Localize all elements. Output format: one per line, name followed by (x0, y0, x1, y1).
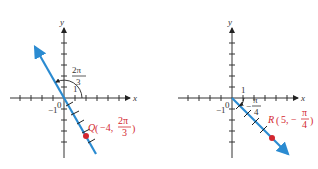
svg-text:): ) (132, 123, 135, 135)
point-q (83, 133, 89, 139)
svg-text:4: 4 (302, 119, 307, 130)
svg-text:4: 4 (254, 107, 259, 117)
svg-text:−4,: −4, (100, 122, 113, 133)
y-axis-label: y (227, 17, 232, 27)
svg-text:5, −: 5, − (281, 114, 297, 125)
x-axis-label: x (300, 93, 305, 103)
svg-text:): ) (310, 115, 313, 127)
svg-text:3: 3 (122, 127, 127, 138)
point-r (269, 135, 275, 141)
origin-label: 0 (57, 100, 62, 110)
origin-label: 0 (225, 100, 230, 110)
svg-text:2π: 2π (118, 115, 128, 126)
y-axis-label: y (59, 17, 64, 27)
svg-text:−: − (246, 101, 251, 111)
right-graph: x y 0 −1 1 − π 4 R ( 5, − π 4 ) (178, 17, 313, 158)
x-axis-label: x (132, 93, 137, 103)
svg-text:2π: 2π (72, 65, 82, 75)
one-label: 1 (241, 85, 246, 95)
svg-text:π: π (302, 107, 307, 118)
angle-arc (240, 98, 244, 106)
neg-one-label: −1 (216, 105, 226, 115)
svg-text:π: π (253, 95, 258, 105)
svg-text:3: 3 (76, 77, 81, 87)
point-q-label: Q ( −4, 2π 3 ) (88, 115, 135, 138)
left-graph: x y 0 −1 1 2π 3 Q ( −4, 2π 3 (10, 17, 137, 158)
polar-figure: x y 0 −1 1 2π 3 Q ( −4, 2π 3 (0, 0, 318, 169)
svg-text:(: ( (276, 115, 280, 127)
svg-text:(: ( (95, 123, 99, 135)
neg-one-label: −1 (48, 105, 58, 115)
point-r-label: R ( 5, − π 4 ) (267, 107, 313, 130)
svg-text:R: R (267, 114, 274, 125)
